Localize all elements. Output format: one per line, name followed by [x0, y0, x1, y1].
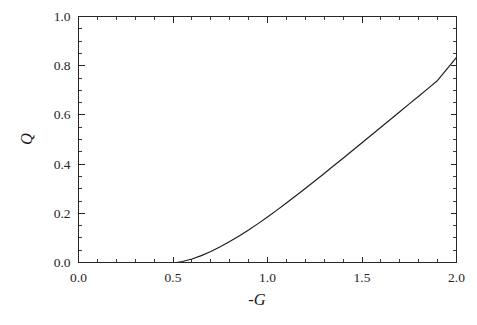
x-tick-label-4: 2.0 [448, 270, 465, 285]
y-tick-label-3: 0.6 [54, 107, 71, 122]
y-tick-label-4: 0.8 [54, 58, 71, 73]
y-tick-label-2: 0.4 [54, 157, 71, 172]
y-tick-label-1: 0.2 [54, 206, 71, 221]
y-axis-title: Q [17, 133, 36, 145]
x-axis-title: -G [248, 290, 265, 309]
x-tick-label-0: 0.0 [70, 270, 87, 285]
x-tick-label-1: 0.5 [165, 270, 182, 285]
x-tick-label-3: 1.5 [354, 270, 371, 285]
y-tick-label-5: 1.0 [54, 9, 71, 24]
y-tick-label-0: 0.0 [54, 255, 71, 270]
x-tick-label-2: 1.0 [259, 270, 276, 285]
plot-area: 0.00.51.01.52.0 0.00.20.40.60.81.0 -G Q [0, 0, 477, 325]
chart-figure: 0.00.51.01.52.0 0.00.20.40.60.81.0 -G Q [0, 0, 477, 325]
